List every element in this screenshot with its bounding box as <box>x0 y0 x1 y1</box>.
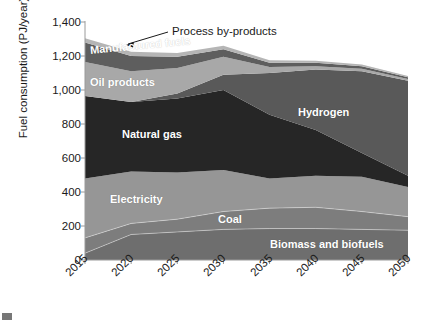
series-label-electricity: Electricity <box>110 193 163 205</box>
page-edge-marker <box>2 313 12 320</box>
x-tick-label: 2035 <box>248 252 275 279</box>
x-tick-label: 2015 <box>63 252 90 279</box>
series-label-manufactured-fuels: Manufactured fuels <box>90 44 191 56</box>
x-tick-label: 2040 <box>294 252 321 279</box>
series-label-biomass-and-biofuels: Biomass and biofuels <box>270 238 384 250</box>
x-tick-label: 2045 <box>340 252 367 279</box>
x-tick-label: 2050 <box>386 252 413 279</box>
x-axis-tick-labels: 20152020202520302035204020452050 <box>0 0 421 320</box>
x-tick-label: 2020 <box>109 252 136 279</box>
series-label-natural-gas: Natural gas <box>122 128 182 140</box>
chart-figure: Fuel consumption (PJ/year) 0200400600800… <box>0 0 421 320</box>
x-tick-label: 2030 <box>201 252 228 279</box>
series-label-hydrogen: Hydrogen <box>298 106 349 118</box>
series-label-coal: Coal <box>218 213 242 225</box>
series-label-oil-products: Oil products <box>90 76 155 88</box>
x-tick-label: 2025 <box>155 252 182 279</box>
